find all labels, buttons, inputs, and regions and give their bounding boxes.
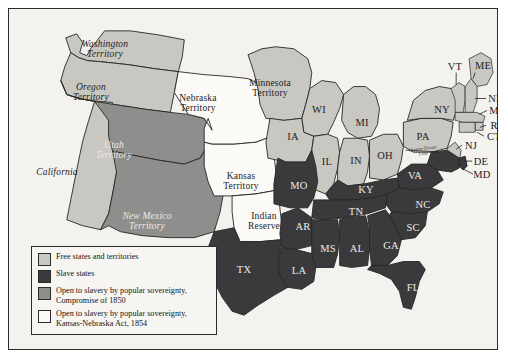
legend-free-states-text: Free states and territories	[56, 252, 139, 262]
legend-slave-states-swatch	[38, 270, 51, 283]
region-florida	[368, 262, 426, 310]
region-new-york	[407, 87, 459, 121]
region-alabama	[340, 216, 370, 268]
region-connecticut	[459, 122, 475, 132]
legend-kansas-nebraska-text: Open to slavery by popular sovereignty, …	[56, 309, 187, 329]
legend-free-states-swatch	[38, 253, 51, 266]
region-arkansas	[280, 208, 314, 250]
legend-slave-states: Slave states	[38, 269, 210, 283]
region-pennsylvania	[403, 118, 453, 152]
legend-kansas-nebraska-swatch	[38, 310, 51, 323]
legend-slave-states-text: Slave states	[56, 269, 94, 279]
region-michigan	[342, 87, 380, 139]
region-new-hampshire	[465, 79, 477, 113]
legend-compromise-1850: Open to slavery by popular sovereignty, …	[38, 286, 210, 306]
legend-compromise-1850-swatch	[38, 287, 51, 300]
region-mississippi	[312, 220, 340, 268]
map-frame: .s-free{fill:#c9c7c2;} .s-slave{fill:#3a…	[8, 8, 498, 350]
region-delaware	[459, 156, 467, 170]
legend-compromise-1850-text: Open to slavery by popular sovereignty, …	[56, 286, 187, 306]
region-north-carolina	[385, 188, 443, 214]
map-legend: Free states and territoriesSlave statesO…	[31, 246, 217, 335]
legend-kansas-nebraska: Open to slavery by popular sovereignty, …	[38, 309, 210, 329]
legend-free-states: Free states and territories	[38, 252, 210, 266]
region-indiana	[338, 138, 370, 186]
